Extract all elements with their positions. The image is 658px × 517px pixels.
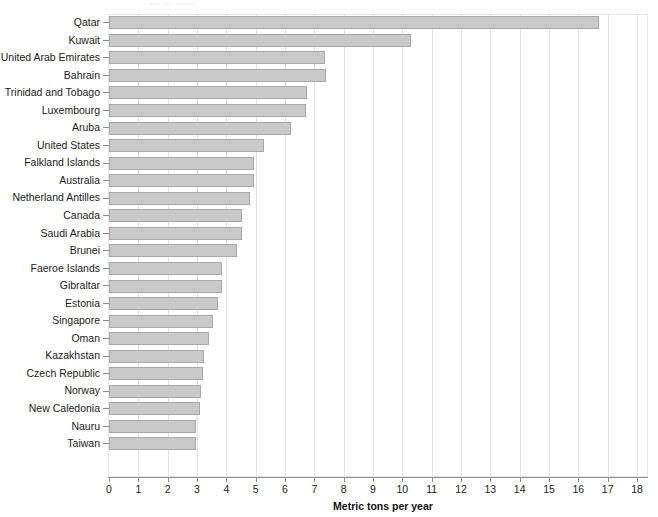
category-label: Falkland Islands [24,154,100,172]
category-label: United Arab Emirates [1,49,100,67]
x-tick-label: 7 [299,483,329,495]
category-label: Netherland Antilles [12,189,100,207]
x-tick-0 [109,477,110,482]
category-label: Oman [71,330,100,348]
x-tick-label: 1 [123,483,153,495]
x-tick-13 [490,477,491,482]
category-label: Faeroe Islands [31,260,100,278]
bar-row: Nauru [0,418,658,436]
category-label: Czech Republic [26,365,100,383]
bar [109,367,203,380]
bar-rows: QatarKuwaitUnited Arab EmiratesBahrainTr… [0,14,658,453]
bar-row: New Caledonia [0,400,658,418]
x-tick-label: 2 [153,483,183,495]
x-tick-3 [197,477,198,482]
category-label: United States [37,137,100,155]
x-tick-label: 12 [446,483,476,495]
bar [109,16,599,29]
bar-row: Luxembourg [0,102,658,120]
bar-row: Estonia [0,295,658,313]
bar [109,122,291,135]
x-tick-label: 5 [241,483,271,495]
bar-row: Oman [0,330,658,348]
bar-row: United Arab Emirates [0,49,658,67]
category-label: Nauru [71,418,100,436]
category-label: Trinidad and Tobago [5,84,100,102]
bar [109,315,213,328]
bar [109,34,411,47]
category-label: Kazakhstan [45,347,100,365]
bar-row: United States [0,137,658,155]
x-tick-16 [578,477,579,482]
bar-row: Gibraltar [0,277,658,295]
bar [109,332,209,345]
category-label: Luxembourg [42,102,100,120]
x-tick-2 [168,477,169,482]
bar-row: Netherland Antilles [0,189,658,207]
x-tick-5 [256,477,257,482]
bar-row: Bahrain [0,67,658,85]
bar-row: Kuwait [0,32,658,50]
bar-row: Singapore [0,312,658,330]
category-label: Taiwan [67,435,100,453]
bar [109,262,222,275]
bar [109,244,237,257]
x-tick-18 [637,477,638,482]
x-tick-label: 3 [182,483,212,495]
x-tick-9 [373,477,374,482]
category-label: Saudi Arabia [40,225,100,243]
x-tick-label: 17 [593,483,623,495]
bar-row: Falkland Islands [0,154,658,172]
bar [109,209,242,222]
bar [109,350,204,363]
clipped-top-text: ··· ··· ······ [150,0,290,7]
bar-row: Qatar [0,14,658,32]
category-label: Canada [63,207,100,225]
x-tick-10 [402,477,403,482]
bar [109,280,222,293]
bar [109,69,326,82]
bar [109,227,242,240]
bar [109,86,307,99]
x-tick-label: 14 [505,483,535,495]
category-label: Estonia [65,295,100,313]
x-axis-title: Metric tons per year [0,500,658,512]
bar [109,139,264,152]
x-tick-11 [432,477,433,482]
bar-row: Norway [0,382,658,400]
x-tick-label: 15 [534,483,564,495]
x-tick-8 [344,477,345,482]
bar-row: Canada [0,207,658,225]
bar-row: Aruba [0,119,658,137]
x-tick-label: 0 [94,483,124,495]
x-tick-label: 6 [270,483,300,495]
x-tick-label: 11 [417,483,447,495]
category-label: New Caledonia [29,400,100,418]
x-tick-12 [461,477,462,482]
bar [109,51,325,64]
x-tick-7 [314,477,315,482]
bar [109,104,306,117]
x-tick-label: 16 [563,483,593,495]
bar-row: Faeroe Islands [0,260,658,278]
x-tick-label: 18 [622,483,652,495]
bar [109,157,254,170]
bar [109,420,196,433]
bar [109,437,196,450]
category-label: Australia [59,172,100,190]
bar-row: Kazakhstan [0,347,658,365]
x-tick-17 [608,477,609,482]
x-tick-15 [549,477,550,482]
category-label: Brunei [70,242,100,260]
bar-row: Czech Republic [0,365,658,383]
bar [109,385,201,398]
x-tick-label: 9 [358,483,388,495]
x-tick-1 [138,477,139,482]
category-label: Aruba [72,119,100,137]
bar-row: Brunei [0,242,658,260]
x-tick-label: 13 [475,483,505,495]
category-label: Singapore [52,312,100,330]
x-tick-14 [520,477,521,482]
x-tick-label: 8 [329,483,359,495]
bar [109,174,254,187]
